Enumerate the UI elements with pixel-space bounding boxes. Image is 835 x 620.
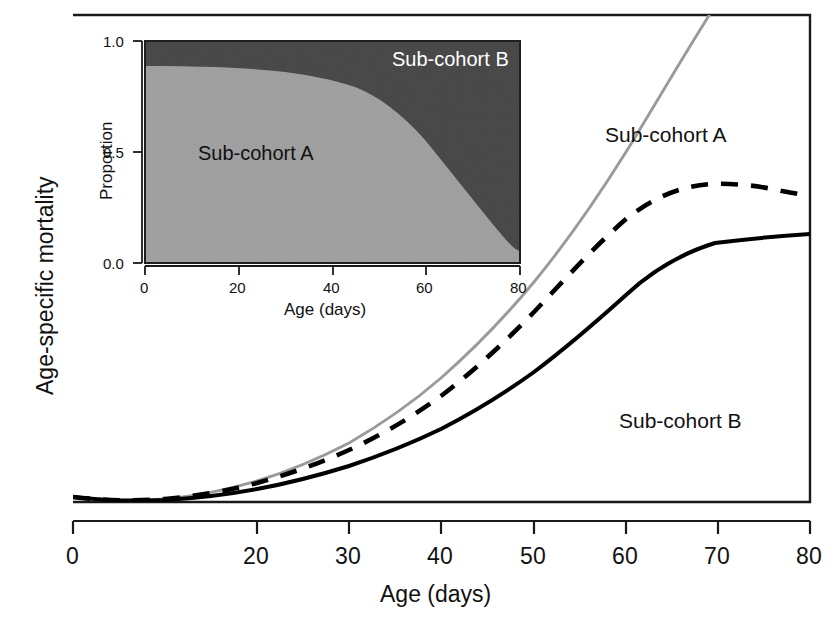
inset-x-tick-label-0: 0 — [140, 280, 148, 295]
annotation-subcohort-a: Sub-cohort A — [605, 124, 726, 145]
chart-canvas — [0, 0, 835, 620]
figure-container: Age-specific mortality 0 20 30 40 50 60 … — [0, 0, 835, 620]
inset-annotation-subcohort-b: Sub-cohort B — [392, 49, 509, 69]
main-x-axis-title: Age (days) — [380, 583, 491, 606]
main-x-tick-label-30: 30 — [335, 545, 361, 568]
inset-y-tick-label-1: 1.0 — [103, 34, 124, 49]
inset-x-axis — [145, 266, 520, 275]
main-x-tick-label-80: 80 — [796, 545, 822, 568]
main-x-tick-label-60: 60 — [612, 545, 638, 568]
main-x-axis — [73, 521, 810, 534]
main-y-axis-title: Age-specific mortality — [34, 176, 57, 395]
inset-annotation-subcohort-a: Sub-cohort A — [198, 143, 314, 163]
main-x-tick-label-20: 20 — [243, 545, 269, 568]
main-x-tick-label-50: 50 — [520, 545, 546, 568]
main-x-tick-label-0: 0 — [66, 545, 79, 568]
main-x-axis-ticks — [73, 521, 810, 534]
inset-x-tick-label-60: 60 — [416, 280, 433, 295]
main-x-tick-label-70: 70 — [704, 545, 730, 568]
inset-x-tick-label-80: 80 — [510, 280, 527, 295]
inset-y-axis-title: Proportion — [98, 122, 115, 200]
curve-subcohort-b — [73, 234, 810, 501]
main-x-tick-label-40: 40 — [427, 545, 453, 568]
inset-x-tick-label-40: 40 — [323, 280, 340, 295]
inset-x-tick-label-20: 20 — [229, 280, 246, 295]
inset-y-axis — [133, 41, 142, 263]
inset-x-axis-title: Age (days) — [284, 301, 366, 318]
inset-y-tick-label-0: 0.0 — [103, 256, 124, 271]
annotation-subcohort-b: Sub-cohort B — [619, 410, 742, 431]
